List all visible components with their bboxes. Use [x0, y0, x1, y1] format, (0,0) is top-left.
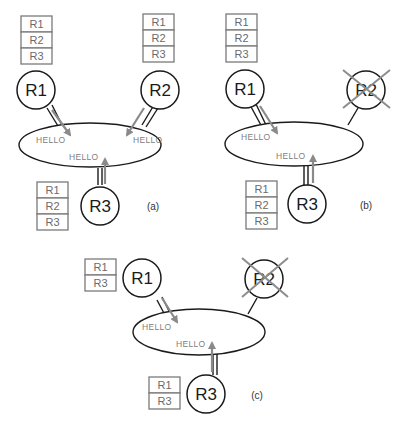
hello-label: HELLO — [276, 151, 305, 161]
table-entry: R2 — [151, 32, 165, 44]
table-entry: R1 — [157, 379, 171, 391]
table-entry: R3 — [93, 277, 107, 289]
svg-text:R1: R1 — [25, 81, 47, 100]
table-entry: R2 — [45, 200, 59, 212]
panel-caption: (a) — [147, 201, 159, 212]
svg-text:R3: R3 — [89, 197, 111, 216]
link-r2-segment-2 — [146, 108, 158, 127]
table-entry: R1 — [151, 16, 165, 28]
svg-text:R1: R1 — [131, 269, 153, 288]
table-entry: R1 — [29, 18, 43, 30]
table-entry: R3 — [151, 48, 165, 60]
routing-table-r3: R1 R3 — [149, 377, 180, 409]
router-r2: R2 — [141, 71, 179, 109]
hello-label: HELLO — [36, 135, 65, 145]
table-entry: R3 — [45, 216, 59, 228]
panel-caption: (c) — [251, 390, 263, 401]
routing-table-r1: R1 R2 R3 — [226, 14, 257, 62]
panel-a: HELLO HELLO HELLO R1 R2 R3 R1 R2 R3 R1 R — [17, 14, 179, 230]
router-r3: R3 — [187, 375, 225, 413]
table-entry: R1 — [234, 16, 248, 28]
hello-label: HELLO — [176, 339, 205, 349]
router-r1: R1 — [123, 259, 161, 297]
link-r2-segment — [348, 108, 358, 125]
table-entry: R3 — [29, 50, 43, 62]
link-r2-segment — [248, 298, 257, 314]
routing-table-r2: R1 R2 R3 — [143, 14, 174, 62]
panel-b: HELLO HELLO R1 R2 R3 R1 R2 R3 R1 R2 — [225, 14, 390, 229]
table-entry: R2 — [234, 32, 248, 44]
svg-text:R3: R3 — [195, 385, 217, 404]
hello-label: HELLO — [241, 132, 270, 142]
router-r3: R3 — [288, 185, 326, 223]
table-entry: R3 — [254, 215, 268, 227]
panel-caption: (b) — [360, 200, 372, 211]
table-entry: R3 — [234, 48, 248, 60]
table-entry: R2 — [254, 199, 268, 211]
svg-text:R2: R2 — [149, 81, 171, 100]
router-r2-failed: R2 — [242, 258, 288, 298]
routing-table-r3: R1 R2 R3 — [246, 181, 277, 229]
router-r2-failed: R2 — [343, 70, 390, 109]
hello-protocol-diagram: HELLO HELLO HELLO R1 R2 R3 R1 R2 R3 R1 R — [0, 0, 403, 428]
router-r1: R1 — [17, 71, 55, 109]
table-entry: R3 — [157, 395, 171, 407]
svg-text:R3: R3 — [296, 195, 318, 214]
router-r3: R3 — [81, 187, 119, 225]
hello-label: HELLO — [142, 322, 171, 332]
table-entry: R1 — [45, 184, 59, 196]
svg-text:R1: R1 — [234, 80, 256, 99]
router-r1: R1 — [226, 70, 264, 108]
routing-table-r3: R1 R2 R3 — [37, 182, 68, 230]
panel-c: HELLO HELLO R1 R3 R1 R3 R1 R2 R3 — [85, 258, 288, 413]
hello-label: HELLO — [133, 135, 162, 145]
hello-label: HELLO — [69, 152, 98, 162]
routing-table-r1: R1 R3 — [85, 259, 116, 291]
table-entry: R1 — [254, 183, 268, 195]
routing-table-r1: R1 R2 R3 — [21, 16, 52, 64]
table-entry: R2 — [29, 34, 43, 46]
table-entry: R1 — [93, 261, 107, 273]
